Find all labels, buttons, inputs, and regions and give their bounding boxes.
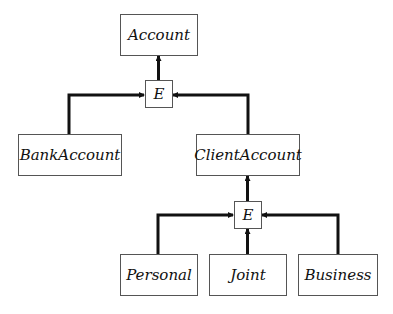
node-bank-account: BankAccount [18, 134, 122, 176]
edge-personal-to-e [158, 215, 233, 254]
node-e-top: E [145, 80, 173, 108]
edge-bankaccount-to-e [69, 95, 144, 134]
node-e-bottom: E [234, 201, 262, 229]
node-personal: Personal [120, 254, 198, 296]
node-joint: Joint [209, 254, 287, 296]
edge-clientaccount-to-e [173, 95, 248, 134]
node-client-account: ClientAccount [196, 134, 300, 176]
node-account: Account [120, 14, 198, 56]
node-business: Business [298, 254, 378, 296]
edge-business-to-e [262, 215, 338, 254]
